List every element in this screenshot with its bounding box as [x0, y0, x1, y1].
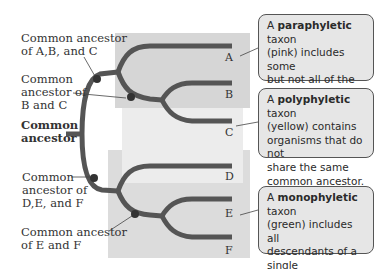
leaf-e: E — [225, 207, 233, 220]
leaf-b: B — [225, 88, 233, 101]
term-polyphyletic: polyphyletic — [278, 93, 351, 105]
leaf-f: F — [225, 244, 233, 257]
leaf-d: D — [225, 170, 234, 183]
label-root-ancestor: Common ancestor — [21, 119, 78, 145]
label-ancestor-ef: Common ancestor of E and F — [21, 226, 127, 252]
node-def-icon — [90, 174, 98, 182]
cladogram-figure: A B C D E F Common ancestor of A,B, and … — [0, 0, 392, 269]
leaf-a: A — [225, 51, 233, 64]
leaf-c: C — [225, 126, 233, 139]
node-ef-icon — [131, 210, 139, 218]
callout-monophyletic: A monophyletic taxon (green) includes al… — [258, 186, 374, 254]
label-ancestor-def: Common ancestor of D,E, and F — [22, 171, 87, 210]
callout-polyphyletic: A polyphyletic taxon (yellow) contains o… — [258, 88, 374, 158]
label-ancestor-bc: Common ancestor of B and C — [21, 73, 86, 112]
term-paraphyletic: paraphyletic — [278, 19, 352, 31]
node-bc-icon — [127, 93, 135, 101]
node-abc-icon — [93, 75, 101, 83]
label-ancestor-abc: Common ancestor of A,B, and C — [21, 32, 127, 58]
term-monophyletic: monophyletic — [278, 191, 358, 203]
callout-paraphyletic: A paraphyletic taxon (pink) includes som… — [258, 14, 374, 81]
